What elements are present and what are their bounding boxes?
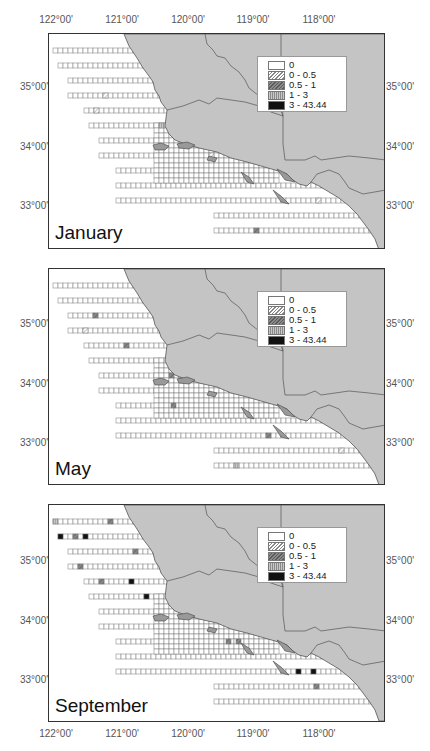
swatch-icon: [268, 316, 285, 325]
lat-label-right: 33°00': [386, 200, 414, 211]
swatch-icon: [268, 71, 285, 80]
lon-label: 120°00': [171, 728, 205, 739]
lat-label-left: 33°00': [20, 200, 48, 211]
lon-label: 118°00': [303, 728, 336, 739]
lat-label-left: 34°00': [20, 141, 48, 152]
swatch-icon: [268, 296, 285, 305]
legend-entry: 3 - 43.44: [268, 571, 346, 581]
lat-label-right: 33°00': [386, 674, 414, 685]
legend-entry: 3 - 43.44: [268, 335, 346, 345]
legend: 0 0 - 0.5 0.5 - 1 1 - 3 3 - 43.44: [257, 291, 347, 347]
month-label: May: [55, 458, 91, 480]
lon-label: 122°00': [39, 728, 73, 739]
lon-label: 119°00': [237, 14, 270, 25]
legend: 0 0 - 0.5 0.5 - 1 1 - 3 3 - 43.44: [257, 56, 347, 112]
month-label: January: [55, 222, 123, 244]
lat-label-right: 35°00': [386, 555, 414, 566]
swatch-icon: [268, 336, 285, 345]
swatch-icon: [268, 572, 285, 581]
lat-label-right: 33°00': [386, 437, 414, 448]
lon-label: 121°00': [105, 14, 139, 25]
lon-label: 122°00': [39, 14, 73, 25]
legend-entry: 3 - 43.44: [268, 100, 346, 110]
legend-label: 3 - 43.44: [289, 335, 327, 345]
swatch-icon: [268, 81, 285, 90]
top-longitude-axis: 122°00' 121°00' 120°00' 119°00' 118°00': [0, 14, 430, 28]
lat-label-left: 33°00': [20, 437, 48, 448]
swatch-icon: [268, 101, 285, 110]
lat-label-left: 33°00': [20, 674, 48, 685]
lat-label-left: 35°00': [20, 555, 48, 566]
lon-label: 120°00': [171, 14, 205, 25]
lat-label-right: 35°00': [386, 81, 414, 92]
legend-label: 3 - 43.44: [289, 571, 327, 581]
lat-label-right: 34°00': [386, 141, 414, 152]
lon-label: 119°00': [237, 728, 270, 739]
swatch-icon: [268, 552, 285, 561]
lat-label-left: 34°00': [20, 615, 48, 626]
map-panel-january: 0 0 - 0.5 0.5 - 1 1 - 3 3 - 43.44 Januar…: [48, 33, 385, 249]
swatch-icon: [268, 306, 285, 315]
swatch-icon: [268, 61, 285, 70]
lat-label-left: 35°00': [20, 318, 48, 329]
lon-label: 121°00': [105, 728, 139, 739]
legend: 0 0 - 0.5 0.5 - 1 1 - 3 3 - 43.44: [257, 527, 347, 583]
swatch-icon: [268, 91, 285, 100]
swatch-icon: [268, 532, 285, 541]
map-panel-september: 0 0 - 0.5 0.5 - 1 1 - 3 3 - 43.44 Septem…: [48, 504, 385, 722]
bottom-longitude-axis: 122°00' 121°00' 120°00' 119°00' 118°00': [0, 728, 430, 742]
lat-label-left: 34°00': [20, 378, 48, 389]
lat-label-right: 35°00': [386, 318, 414, 329]
month-label: September: [55, 695, 148, 717]
map-panel-may: 0 0 - 0.5 0.5 - 1 1 - 3 3 - 43.44 May: [48, 268, 385, 485]
swatch-icon: [268, 562, 285, 571]
lat-label-right: 34°00': [386, 615, 414, 626]
swatch-icon: [268, 326, 285, 335]
swatch-icon: [268, 542, 285, 551]
lat-label-right: 34°00': [386, 378, 414, 389]
lat-label-left: 35°00': [20, 81, 48, 92]
legend-label: 3 - 43.44: [289, 100, 327, 110]
lon-label: 118°00': [303, 14, 336, 25]
